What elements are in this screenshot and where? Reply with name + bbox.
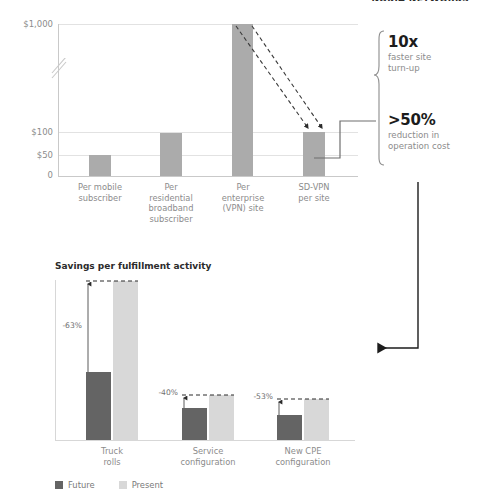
- cat-line: Service: [168, 446, 248, 457]
- callout-detail: faster site turn-up: [388, 52, 431, 73]
- bottom-chart-legend: Future Present: [55, 480, 187, 490]
- callout-50pct: >50% reduction in operation cost: [388, 112, 450, 151]
- legend-item-future: Future: [55, 480, 95, 490]
- callout-detail-line: reduction in: [388, 130, 450, 141]
- bottom-x-category-new-cpe-configuration: New CPE configuration: [263, 446, 343, 467]
- legend-swatch-future-icon: [55, 481, 63, 489]
- reduction-label-new-cpe-configuration: -53%: [243, 392, 273, 401]
- savings-per-fulfillment-chart: Savings per fulfillment activity -63% -4…: [0, 255, 477, 503]
- legend-label-future: Future: [68, 480, 95, 490]
- callout-10x: 10x faster site turn-up: [388, 34, 431, 73]
- cat-line: configuration: [263, 457, 343, 468]
- cat-line: Truck: [72, 446, 152, 457]
- callout-detail: reduction in operation cost: [388, 130, 450, 151]
- callout-detail-line: turn-up: [388, 63, 431, 74]
- callout-detail-line: operation cost: [388, 141, 450, 152]
- reduction-label-truck-rolls: -63%: [52, 321, 82, 330]
- legend-item-present: Present: [119, 480, 163, 490]
- bottom-x-category-truck-rolls: Truck rolls: [72, 446, 152, 467]
- callout-headline: >50%: [388, 112, 450, 128]
- reduction-label-service-configuration: -40%: [148, 388, 178, 397]
- callout-headline: 10x: [388, 34, 431, 50]
- cat-line: New CPE: [263, 446, 343, 457]
- bottom-x-category-service-configuration: Service configuration: [168, 446, 248, 467]
- cat-line: configuration: [168, 457, 248, 468]
- cat-line: rolls: [72, 457, 152, 468]
- callout-detail-line: faster site: [388, 52, 431, 63]
- legend-label-present: Present: [132, 480, 163, 490]
- legend-swatch-present-icon: [119, 481, 127, 489]
